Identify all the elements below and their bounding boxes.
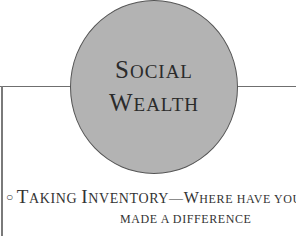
term-initial: T <box>17 186 29 207</box>
rule-right <box>237 86 296 87</box>
title-initial: S <box>115 56 130 83</box>
term-rest: NVENTORY <box>88 191 169 206</box>
bullet-item: ○TAKING INVENTORY—WHERE HAVE YOU <box>6 186 296 208</box>
bullet-circle-icon: ○ <box>6 190 14 204</box>
title-rest: OCIAL <box>130 61 193 82</box>
term-rest: AKING <box>29 191 81 206</box>
section-title-line2: WEALTH <box>70 89 238 117</box>
title-initial: W <box>109 89 134 116</box>
question-line2: MADE A DIFFERENCE <box>120 212 252 227</box>
section-title-line1: SOCIAL <box>70 56 238 84</box>
rule-vertical <box>1 86 3 236</box>
section-circle <box>70 0 238 174</box>
title-rest: EALTH <box>134 94 200 115</box>
question-initial: W <box>184 189 200 206</box>
question-text: HERE HAVE YOU <box>199 192 296 206</box>
rule-left <box>0 86 71 87</box>
dash: — <box>169 191 184 206</box>
